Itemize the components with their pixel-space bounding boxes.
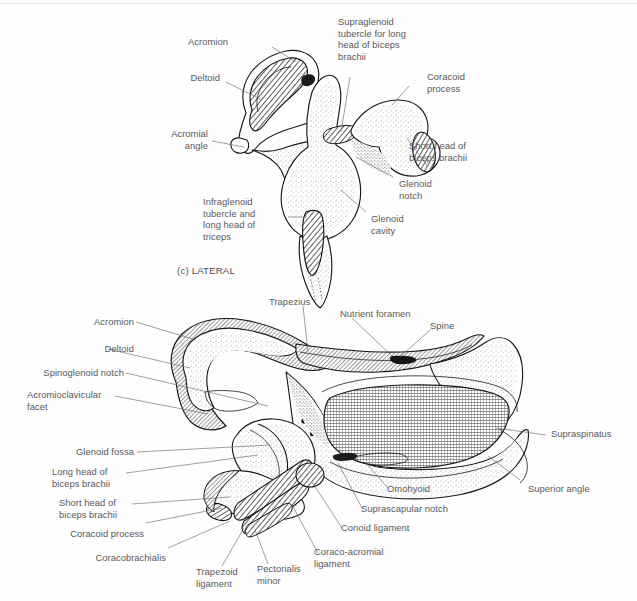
label-nutrient-foramen: Nutrient foramen [340, 308, 440, 320]
label-suprascapular-notch: Suprascapular notch [361, 503, 475, 515]
leader-nutrient-foramen-d [352, 318, 392, 356]
label-glenoid-cavity-lateral: Glenoid cavity [371, 213, 433, 236]
leader-conoid-ligament-d [312, 482, 342, 528]
leader-trapezoid-ligament-d [222, 528, 244, 566]
label-spinoglenoid-notch: Spinoglenoid notch [24, 367, 124, 379]
label-omohyoid: Omohyoid [387, 483, 457, 495]
figure-page: Acromion Deltoid Acromial angle Infragle… [0, 0, 637, 601]
label-spine: Spine [430, 320, 474, 332]
label-trapezius: Trapezius [269, 296, 331, 308]
label-acromial-angle-lateral: Acromial angle [136, 128, 208, 151]
label-pectorialis-minor: Pectorialis minor [257, 563, 315, 586]
panel-c-caption: (c) LATERAL [177, 265, 235, 276]
label-infraglenoid-tubercle-lateral: Infraglenoid tubercle and long head of t… [203, 196, 289, 242]
label-conoid-ligament: Conoid ligament [341, 522, 441, 534]
label-acromioclavicular-facet: Acromioclavicular facet [27, 389, 125, 412]
label-deltoid-superior: Deltoid [58, 343, 134, 355]
label-short-head-biceps-superior: Short head of biceps brachii [59, 497, 133, 520]
label-supraspinatus: Supraspinatus [551, 428, 637, 440]
label-coracobrachialis: Coracobrachialis [60, 552, 166, 564]
label-trapezoid-ligament: Trapezoid ligament [196, 566, 258, 589]
label-acromion-superior: Acromion [58, 316, 134, 328]
label-glenoid-notch-lateral: Glenoid notch [399, 178, 461, 201]
label-coracoid-process-superior: Coracoid process [42, 528, 144, 540]
label-short-head-biceps-lateral: Short head of biceps brachii [409, 140, 499, 163]
leader-pectorialis-minor-d [255, 530, 268, 564]
leader-coracobrachialis-d [168, 521, 230, 548]
label-supraglenoid-tubercle-lateral: Supraglenoid tubercle for long head of b… [338, 16, 434, 62]
label-glenoid-fossa: Glenoid fossa [52, 446, 134, 458]
label-long-head-biceps-superior: Long head of biceps brachii [52, 466, 128, 489]
label-coracoid-process-lateral: Coracoid process [427, 71, 493, 94]
label-deltoid-lateral: Deltoid [150, 72, 220, 84]
label-coraco-acromial-ligament: Coraco-acromial ligament [314, 546, 406, 569]
label-acromion-lateral: Acromion [150, 36, 228, 48]
leader-supraglenoid-c [341, 77, 350, 132]
label-superior-angle: Superior angle [528, 483, 618, 495]
